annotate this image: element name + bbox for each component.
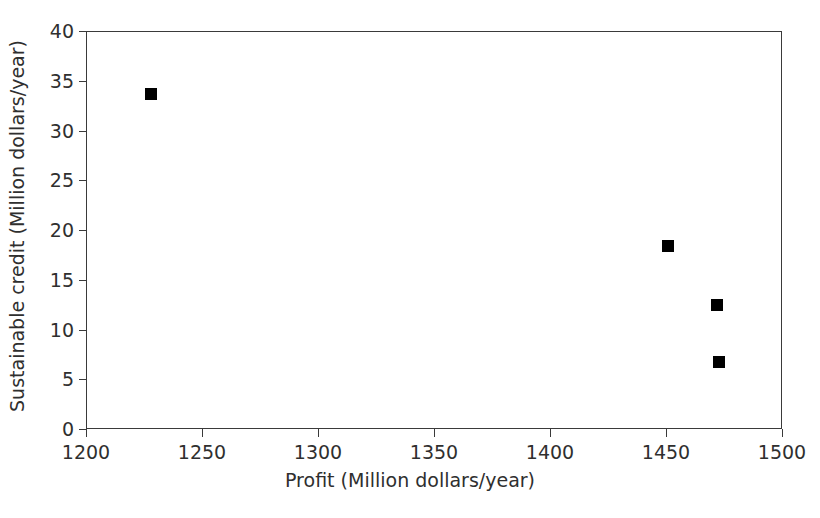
y-axis-tick (79, 31, 87, 32)
y-axis-label: Sustainable credit (Million dollars/year… (6, 14, 28, 438)
x-axis-tick (550, 429, 551, 437)
y-axis-label-wrapper: Sustainable credit (Million dollars/year… (0, 0, 34, 460)
y-axis-tick (79, 330, 87, 331)
y-axis-tick (79, 131, 87, 132)
y-axis-tick (79, 81, 87, 82)
y-axis-tick-label: 0 (62, 418, 74, 440)
x-axis-tick-label: 1250 (178, 441, 226, 463)
x-axis-tick (86, 429, 87, 437)
data-point (145, 88, 157, 100)
data-point (713, 356, 725, 368)
x-axis-tick (434, 429, 435, 437)
x-axis-tick (318, 429, 319, 437)
scatter-chart-figure: 0510152025303540 12001250130013501400145… (0, 0, 820, 518)
y-axis-tick-label: 5 (62, 368, 74, 390)
x-axis-tick-label: 1200 (62, 441, 110, 463)
y-axis-tick-label: 20 (50, 219, 74, 241)
y-axis-tick (79, 180, 87, 181)
x-axis-tick-label: 1450 (642, 441, 690, 463)
x-axis-tick (666, 429, 667, 437)
x-axis-tick (782, 429, 783, 437)
x-axis-tick-label: 1350 (410, 441, 458, 463)
y-axis-tick-label: 25 (50, 169, 74, 191)
x-axis-tick (202, 429, 203, 437)
y-axis-tick-label: 30 (50, 120, 74, 142)
plot-area (86, 31, 782, 429)
data-point (711, 299, 723, 311)
y-axis-tick-label: 15 (50, 269, 74, 291)
x-axis-tick-label: 1300 (294, 441, 342, 463)
x-axis-tick-label: 1400 (526, 441, 574, 463)
y-axis-tick (79, 379, 87, 380)
x-axis-label: Profit (Million dollars/year) (0, 469, 820, 491)
y-axis-tick-label: 35 (50, 70, 74, 92)
y-axis-tick (79, 280, 87, 281)
x-axis-tick-label: 1500 (758, 441, 806, 463)
data-point (662, 240, 674, 252)
y-axis-tick-label: 10 (50, 319, 74, 341)
y-axis-tick-label: 40 (50, 20, 74, 42)
y-axis-tick (79, 230, 87, 231)
